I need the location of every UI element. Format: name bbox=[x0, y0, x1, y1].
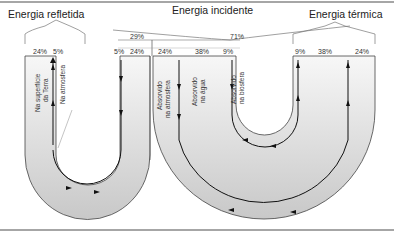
thermal-bracket bbox=[293, 22, 375, 44]
pct-71: 71% bbox=[230, 33, 244, 40]
energy-flow-diagram: Energia refletida Energia incidente Ener… bbox=[0, 0, 394, 232]
label-surface-1: Na superfície bbox=[34, 73, 42, 112]
label-abs-bio-2: na biosfera bbox=[238, 71, 245, 104]
pct-29: 29% bbox=[130, 33, 144, 40]
header-reflected: Energia refletida bbox=[8, 8, 85, 20]
label-abs-water-2: na água bbox=[199, 79, 207, 103]
pct-therm-38: 38% bbox=[318, 48, 332, 55]
pct-refl-5: 5% bbox=[53, 48, 63, 55]
label-abs-water-1: Absorvido bbox=[191, 77, 198, 106]
pct-inc-5: 5% bbox=[114, 48, 124, 55]
reflected-bracket bbox=[25, 20, 85, 44]
pct-inc-38: 38% bbox=[195, 48, 209, 55]
pct-therm-24: 24% bbox=[355, 48, 369, 55]
pct-refl-24: 24% bbox=[33, 48, 47, 55]
absorbed-energy-band bbox=[153, 56, 375, 219]
header-thermal: Energia térmica bbox=[309, 8, 383, 20]
pct-inc-24a: 24% bbox=[130, 48, 144, 55]
label-abs-atm-2: na atmosfera bbox=[164, 80, 171, 118]
label-abs-bio-1: Absorvido bbox=[230, 75, 237, 104]
label-atmosphere: Na atmosfera bbox=[59, 65, 66, 104]
pct-inc-24b: 24% bbox=[158, 48, 172, 55]
pct-therm-9: 9% bbox=[295, 48, 305, 55]
pct-inc-9: 9% bbox=[223, 48, 233, 55]
header-incident: Energia incidente bbox=[172, 4, 253, 16]
label-surface-2: da Terra bbox=[42, 78, 49, 102]
atmosphere-pointer bbox=[58, 110, 72, 148]
label-abs-atm-1: Absorvido bbox=[156, 81, 163, 110]
